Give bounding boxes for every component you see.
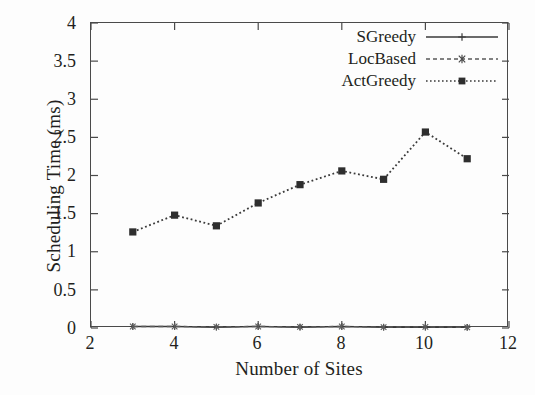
y-tick-label: 1.5 <box>20 204 76 222</box>
data-point <box>255 199 262 206</box>
series-actgreedy <box>129 128 471 235</box>
y-tick-label: 3.5 <box>20 52 76 70</box>
data-point <box>338 167 345 174</box>
x-tick-label: 4 <box>154 334 194 352</box>
legend-key-locbased <box>426 52 498 66</box>
data-point <box>464 155 471 162</box>
y-tick-label: 0.5 <box>20 281 76 299</box>
x-tick-label: 6 <box>237 334 277 352</box>
x-tick-label: 2 <box>70 334 110 352</box>
scheduling-time-chart: Scheduling Time (ms) Number of Sites 4 3… <box>0 0 535 395</box>
y-tick-label: 0 <box>20 319 76 337</box>
data-point <box>422 128 429 135</box>
y-tick-label: 1 <box>20 242 76 260</box>
data-point <box>296 181 303 188</box>
data-point <box>129 228 136 235</box>
x-tick-label: 12 <box>488 334 528 352</box>
legend-label: ActGreedy <box>341 71 426 91</box>
x-tick-label: 10 <box>404 334 444 352</box>
data-point <box>380 176 387 183</box>
legend-key-sgreedy <box>426 30 498 44</box>
y-tick-label: 4 <box>20 14 76 32</box>
legend-item-locbased[interactable]: LocBased <box>318 48 498 70</box>
y-tick-label: 3 <box>20 90 76 108</box>
x-tick-label: 8 <box>321 334 361 352</box>
data-point <box>213 222 220 229</box>
data-point <box>171 212 178 219</box>
legend-item-actgreedy[interactable]: ActGreedy <box>318 70 498 92</box>
legend-label: LocBased <box>348 49 426 69</box>
y-tick-label: 2.5 <box>20 128 76 146</box>
legend-label: SGreedy <box>357 27 426 47</box>
y-tick-label: 2 <box>20 166 76 184</box>
legend-item-sgreedy[interactable]: SGreedy <box>318 26 498 48</box>
legend: SGreedy LocBased ActGreedy <box>318 26 498 92</box>
data-series-layer <box>129 128 471 330</box>
legend-key-actgreedy <box>426 74 498 88</box>
